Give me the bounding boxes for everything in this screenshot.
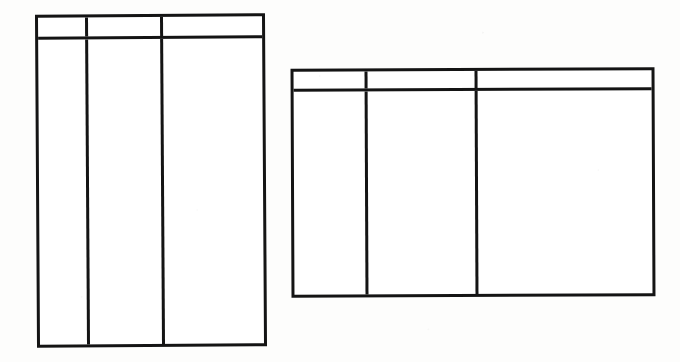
- right-table-body-row: [294, 90, 653, 295]
- right-header-cell-3-text: [478, 70, 652, 77]
- left-header-cell-1-text: [38, 17, 85, 23]
- left-table-header-row: [38, 16, 262, 39]
- left-portrait-table[interactable]: [35, 13, 267, 347]
- left-table-body-row: [38, 38, 264, 344]
- right-header-cell-2-text: [368, 71, 475, 77]
- right-body-cell-1-text: [294, 91, 365, 97]
- right-header-cell-3[interactable]: [478, 70, 652, 88]
- left-body-cell-3[interactable]: [163, 38, 264, 344]
- right-body-cell-1[interactable]: [294, 91, 369, 294]
- left-body-cell-2[interactable]: [88, 39, 165, 344]
- left-body-cell-3-text: [163, 38, 262, 45]
- left-header-cell-3[interactable]: [163, 16, 262, 36]
- right-header-cell-2[interactable]: [368, 71, 478, 88]
- right-header-cell-1-text: [294, 71, 365, 77]
- left-header-cell-2-text: [88, 17, 160, 23]
- right-landscape-table[interactable]: [291, 67, 656, 298]
- right-body-cell-2-text: [368, 91, 475, 97]
- left-header-cell-3-text: [163, 16, 262, 23]
- right-body-cell-3-text: [478, 90, 652, 97]
- left-body-cell-1-text: [38, 39, 85, 45]
- right-body-cell-3[interactable]: [478, 90, 653, 294]
- scanned-page-canvas: [0, 0, 680, 362]
- right-header-cell-1[interactable]: [294, 71, 368, 88]
- right-table-header-row: [294, 70, 652, 92]
- right-body-cell-2[interactable]: [368, 91, 479, 294]
- left-header-cell-1[interactable]: [38, 17, 88, 36]
- left-header-cell-2[interactable]: [88, 17, 163, 36]
- left-body-cell-1[interactable]: [38, 39, 90, 344]
- left-body-cell-2-text: [88, 39, 160, 45]
